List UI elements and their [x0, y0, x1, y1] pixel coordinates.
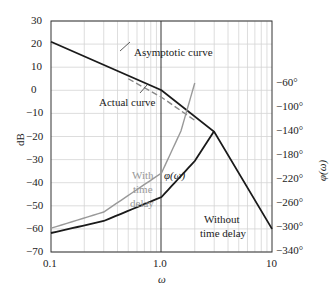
y-right-tick-label: −300°: [276, 221, 303, 232]
actual-curve-label: Actual curve: [99, 97, 156, 108]
y-tick-label: 0: [31, 84, 37, 95]
with-delay-label-1: With: [132, 170, 154, 181]
y-right-tick-label: −180°: [276, 149, 303, 160]
x-tick-label: 1.0: [153, 258, 167, 269]
series--without-time-delay: [51, 131, 214, 233]
y-tick-label: −20: [26, 131, 43, 142]
phi-label: φ(ω): [164, 170, 185, 181]
y-axis-right-label: φ(ω): [317, 160, 328, 181]
y-tick-label: 20: [31, 38, 42, 49]
without-delay-label-1: Without: [204, 214, 240, 225]
y-tick-label: −30: [26, 154, 43, 165]
bode-plot: 3020100−10−20−30−40−50−60−70 −60°−100°−1…: [0, 0, 336, 291]
y-right-tick-label: −220°: [276, 173, 303, 184]
y-right-tick-label: −260°: [276, 197, 303, 208]
y-tick-label: 10: [31, 61, 42, 72]
x-tick-label: 10: [266, 258, 277, 269]
y-axis-label: dB: [15, 133, 26, 146]
asymptotic-curve-label: Asymptotic curve: [134, 47, 213, 58]
without-delay-label-2: time delay: [200, 228, 246, 239]
x-axis-label: ω: [158, 274, 166, 285]
x-tick-label: 0.1: [43, 258, 57, 269]
y-tick-label: −40: [26, 177, 43, 188]
y-right-tick-label: −340°: [276, 245, 303, 256]
y-right-tick-label: −140°: [276, 125, 303, 136]
y-tick-label: −50: [26, 200, 43, 211]
with-delay-label-3: delay: [130, 198, 154, 209]
with-delay-label-2: time: [133, 184, 153, 195]
y-tick-label: 30: [31, 15, 42, 26]
y-tick-label: −10: [26, 107, 43, 118]
y-right-tick-label: −100°: [276, 101, 303, 112]
y-right-tick-label: −60°: [276, 77, 298, 88]
y-tick-label: −70: [26, 246, 43, 257]
y-tick-label: −60: [26, 223, 43, 234]
